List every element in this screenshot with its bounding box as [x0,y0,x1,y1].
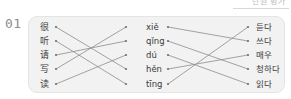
korean-item-0: 듣다 [256,23,272,32]
korean-column: 듣다쓰다매우청하다읽다 [28,16,285,93]
header-title-text: 단원 평가 [252,0,285,6]
exercise-page: 단원 평가 01 很听请写读 xiěqǐngdúhěntīng 듣다쓰다매우청하… [0,0,291,99]
header-divider [233,8,289,9]
korean-item-3: 청하다 [256,65,280,74]
korean-item-4: 읽다 [256,80,272,89]
korean-item-2: 매우 [256,51,272,60]
question-number: 01 [5,17,22,31]
korean-item-1: 쓰다 [256,37,272,46]
